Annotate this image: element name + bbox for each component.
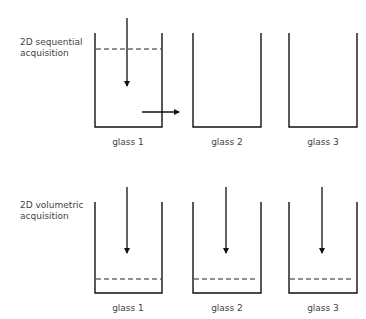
glass-label: glass 3: [307, 137, 339, 147]
row-title-line1: 2D volumetric: [20, 200, 84, 210]
row-title-line1: 2D sequential: [20, 37, 82, 47]
row-title-line2: acquisition: [20, 211, 69, 221]
glass-label: glass 3: [307, 303, 339, 313]
glass-label: glass 1: [112, 137, 144, 147]
glass-2: glass 2: [193, 187, 261, 313]
glass-outline: [289, 33, 357, 127]
glass-label: glass 1: [112, 303, 144, 313]
glass-3: glass 3: [289, 33, 357, 147]
acquisition-diagram: 2D sequential acquisition glass 1 glass …: [0, 0, 366, 319]
glass-outline: [95, 33, 162, 127]
glass-1: glass 1: [95, 18, 179, 147]
row-title-line2: acquisition: [20, 48, 69, 58]
row-sequential: 2D sequential acquisition glass 1 glass …: [20, 18, 357, 147]
glass-2: glass 2: [193, 33, 261, 147]
glass-label: glass 2: [211, 303, 243, 313]
row-volumetric: 2D volumetric acquisition glass 1 glass …: [20, 187, 357, 313]
glass-1: glass 1: [95, 187, 162, 313]
glass-3: glass 3: [289, 187, 357, 313]
glass-outline: [193, 33, 261, 127]
glass-label: glass 2: [211, 137, 243, 147]
